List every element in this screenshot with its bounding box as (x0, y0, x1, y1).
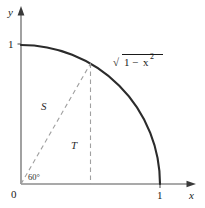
y-axis-label: y (7, 6, 13, 18)
y-axis-arrowhead (18, 6, 25, 16)
radicand-variable: x (143, 56, 149, 68)
region-label-t: T (71, 139, 78, 151)
origin-label: 0 (11, 188, 17, 200)
y-axis-tick-label: 1 (8, 38, 14, 50)
x-axis-label: x (188, 189, 194, 201)
y-axis (18, 6, 25, 184)
radical-symbol: √ (113, 56, 120, 68)
region-label-s: S (41, 100, 47, 112)
x-axis (21, 181, 196, 187)
quarter-circle-diagram: y x 0 1 1 S T 60° √ 1 − x 2 (0, 0, 205, 208)
figure-container: y x 0 1 1 S T 60° √ 1 − x 2 (0, 0, 205, 208)
x-axis-tick-label: 1 (157, 189, 163, 201)
radicand-one: 1 (124, 56, 130, 68)
angle-label-60: 60° (28, 172, 40, 182)
radicand-exponent: 2 (150, 52, 154, 61)
radius-dashed-line (21, 64, 91, 184)
x-axis-arrowhead (187, 181, 197, 187)
radicand-minus: − (132, 56, 138, 68)
curve-expression-label: √ 1 − x 2 (113, 52, 163, 68)
